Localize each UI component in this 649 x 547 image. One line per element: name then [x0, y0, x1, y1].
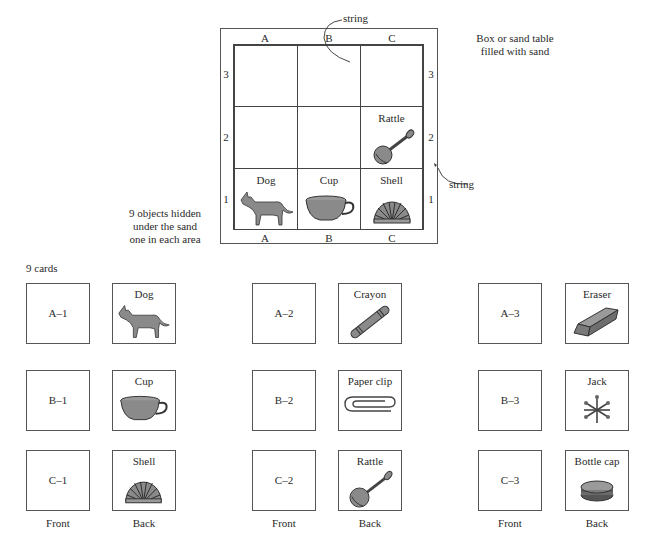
- front-label-col2: Front: [252, 517, 316, 529]
- card-name: Paper clip: [339, 375, 401, 387]
- card-code: A–2: [253, 307, 315, 319]
- paper-clip-icon: [339, 387, 401, 429]
- bottle-cap-icon: [566, 467, 628, 509]
- card-code: A–1: [27, 307, 89, 319]
- card-name: Jack: [566, 375, 628, 387]
- card-back-paper-clip: Paper clip: [338, 370, 402, 431]
- card-name: Rattle: [339, 455, 401, 467]
- card-code: B–3: [479, 394, 541, 406]
- card-back-rattle: Rattle: [338, 450, 402, 511]
- dog-icon: [113, 300, 175, 342]
- hidden-objects-note: 9 objects hidden under the sand one in e…: [112, 207, 218, 246]
- crayon-icon: [339, 300, 401, 342]
- jack-icon: [566, 387, 628, 429]
- card-code: B–1: [27, 394, 89, 406]
- card-back-crayon: Crayon: [338, 283, 402, 344]
- back-label-col1: Back: [112, 517, 176, 529]
- card-front-a2: A–2: [252, 283, 316, 344]
- eraser-icon: [566, 300, 628, 342]
- card-code: C–1: [27, 474, 89, 486]
- card-back-eraser: Eraser: [565, 283, 629, 344]
- card-back-dog: Dog: [112, 283, 176, 344]
- box-note: Box or sand table filled with sand: [450, 32, 580, 58]
- card-back-bottle-cap: Bottle cap: [565, 450, 629, 511]
- box-note-line-2: filled with sand: [450, 45, 580, 58]
- card-name: Shell: [113, 455, 175, 467]
- card-name: Crayon: [339, 288, 401, 300]
- card-name: Cup: [113, 375, 175, 387]
- card-front-b1: B–1: [26, 370, 90, 431]
- front-label-col1: Front: [26, 517, 90, 529]
- front-label-col3: Front: [478, 517, 542, 529]
- hidden-note-line-2: under the sand: [112, 220, 218, 233]
- card-code: C–2: [253, 474, 315, 486]
- card-back-jack: Jack: [565, 370, 629, 431]
- hidden-note-line-3: one in each area: [112, 233, 218, 246]
- card-front-c1: C–1: [26, 450, 90, 511]
- back-label-col3: Back: [565, 517, 629, 529]
- back-label-col2: Back: [338, 517, 402, 529]
- rattle-icon: [339, 467, 401, 509]
- card-front-c2: C–2: [252, 450, 316, 511]
- cup-icon: [113, 387, 175, 429]
- card-front-b3: B–3: [478, 370, 542, 431]
- card-name: Eraser: [566, 288, 628, 300]
- card-name: Bottle cap: [566, 455, 628, 467]
- cards-title: 9 cards: [26, 262, 57, 275]
- card-code: A–3: [479, 307, 541, 319]
- card-name: Dog: [113, 288, 175, 300]
- card-back-cup: Cup: [112, 370, 176, 431]
- string-label-top: string: [343, 12, 368, 25]
- card-back-shell: Shell: [112, 450, 176, 511]
- string-label-right: string: [449, 178, 474, 191]
- card-code: C–3: [479, 474, 541, 486]
- card-front-a1: A–1: [26, 283, 90, 344]
- hidden-note-line-1: 9 objects hidden: [112, 207, 218, 220]
- card-front-c3: C–3: [478, 450, 542, 511]
- card-code: B–2: [253, 394, 315, 406]
- card-front-a3: A–3: [478, 283, 542, 344]
- box-note-line-1: Box or sand table: [450, 32, 580, 45]
- shell-icon: [113, 467, 175, 509]
- card-front-b2: B–2: [252, 370, 316, 431]
